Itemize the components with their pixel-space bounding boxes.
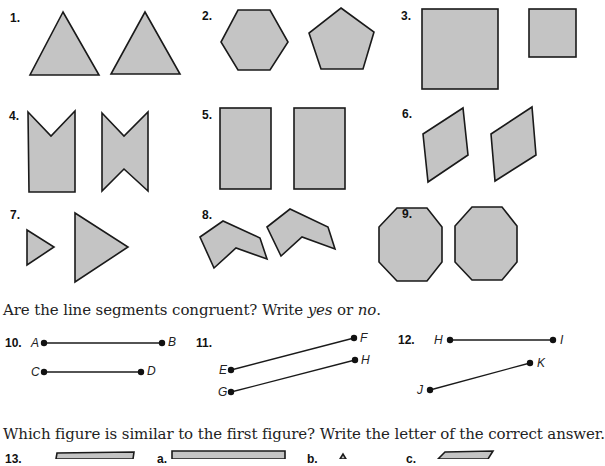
option-b-label: b. bbox=[307, 452, 318, 466]
label-B: B bbox=[168, 335, 176, 349]
triangle-1a bbox=[30, 12, 99, 75]
figure-13-first bbox=[56, 452, 134, 459]
item-number-4: 4. bbox=[9, 109, 19, 123]
option-c-label: c. bbox=[406, 452, 416, 466]
label-H: H bbox=[361, 353, 370, 367]
option-a-label: a. bbox=[157, 452, 167, 466]
parallelogram-6a bbox=[423, 108, 468, 182]
chevron-8b bbox=[267, 209, 335, 256]
label-J: J bbox=[417, 383, 423, 397]
point-J bbox=[427, 387, 433, 393]
label-K: K bbox=[537, 356, 545, 370]
point-I bbox=[550, 337, 556, 343]
notched-rectangle-4a bbox=[28, 111, 75, 192]
item-number-6: 6. bbox=[402, 107, 412, 121]
segments-instruction: Are the line segments congruent? Write y… bbox=[3, 301, 381, 319]
item-number-1: 1. bbox=[10, 11, 20, 25]
point-C bbox=[41, 369, 47, 375]
point-D bbox=[138, 369, 144, 375]
item-number-11: 11. bbox=[196, 336, 212, 350]
label-I: I bbox=[560, 333, 563, 347]
item-number-9: 9. bbox=[402, 207, 412, 221]
item-number-8: 8. bbox=[202, 208, 212, 222]
label-F: F bbox=[360, 331, 367, 345]
label-D: D bbox=[147, 364, 156, 378]
label-G: G bbox=[218, 385, 227, 399]
item-number-3: 3. bbox=[401, 9, 411, 23]
large-triangle-7b bbox=[75, 213, 128, 282]
segment-JK bbox=[430, 363, 530, 390]
hexagon-2a bbox=[221, 10, 288, 70]
point-G bbox=[228, 389, 234, 395]
chevron-8a bbox=[200, 221, 267, 268]
rectangle-5a bbox=[220, 108, 271, 189]
parallelogram-6b bbox=[491, 107, 536, 181]
small-square-3b bbox=[529, 9, 576, 57]
bowtie-hexagon-4b bbox=[102, 112, 148, 191]
label-A: A bbox=[31, 336, 39, 350]
item-number-5: 5. bbox=[202, 108, 212, 122]
item-number-2: 2. bbox=[202, 9, 212, 23]
figure-13c-parallelogram bbox=[438, 451, 493, 459]
rectangle-5b bbox=[294, 108, 345, 189]
point-B bbox=[159, 340, 165, 346]
point-H bbox=[352, 357, 358, 363]
label-H2: H bbox=[434, 333, 443, 347]
octagon-9b bbox=[455, 207, 517, 280]
point-E bbox=[228, 367, 234, 373]
point-F bbox=[351, 335, 357, 341]
pentagon-2b bbox=[309, 8, 374, 69]
point-A bbox=[41, 340, 47, 346]
item-number-10: 10. bbox=[5, 336, 22, 350]
large-square-3a bbox=[422, 9, 498, 89]
figure-13a bbox=[172, 451, 285, 459]
similar-instruction: Which figure is similar to the first fig… bbox=[3, 425, 605, 443]
point-K bbox=[527, 360, 533, 366]
item-number-13: 13. bbox=[5, 452, 22, 466]
label-E: E bbox=[219, 363, 227, 377]
label-C: C bbox=[31, 365, 40, 379]
figure-13b-triangle bbox=[340, 454, 346, 459]
small-triangle-7a bbox=[27, 230, 54, 265]
item-number-7: 7. bbox=[10, 208, 20, 222]
triangle-1b bbox=[111, 12, 180, 74]
point-H2 bbox=[447, 337, 453, 343]
item-number-12: 12. bbox=[398, 333, 415, 347]
